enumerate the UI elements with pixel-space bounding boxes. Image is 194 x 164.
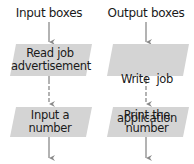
input-column-graphics <box>10 22 92 158</box>
output-boxes-heading: Output boxes <box>98 7 194 20</box>
box-read-job: Read job advertisement <box>11 47 89 73</box>
box-print-number: Print the number <box>108 109 186 135</box>
input-boxes-heading: Input boxes <box>0 7 98 20</box>
box-text-line2: number <box>108 122 186 135</box>
box-text-line1: Write job <box>108 73 186 86</box>
box-text-line2: advertisement <box>11 60 89 73</box>
box-input-number: Input a number <box>11 109 89 135</box>
box-text-line2: number <box>11 122 89 135</box>
